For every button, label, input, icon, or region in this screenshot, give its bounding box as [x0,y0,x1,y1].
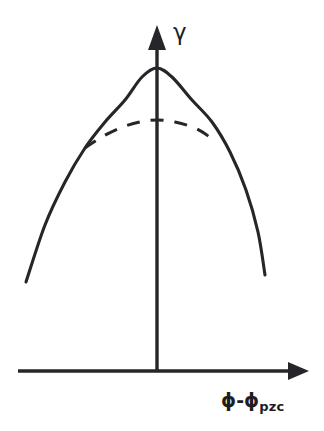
x-axis-label-subscript: pzc [259,399,284,414]
electrocapillary-figure: γ ϕ-ϕpzc [0,0,324,431]
x-axis-arrowhead-icon [288,362,309,380]
solid-electrocapillary-curve [26,68,265,282]
x-axis-label-main: ϕ-ϕ [221,389,259,411]
y-axis-label: γ [173,21,187,44]
x-axis-label: ϕ-ϕpzc [221,391,284,413]
figure-canvas [0,0,324,431]
y-axis-arrowhead-icon [148,25,166,50]
